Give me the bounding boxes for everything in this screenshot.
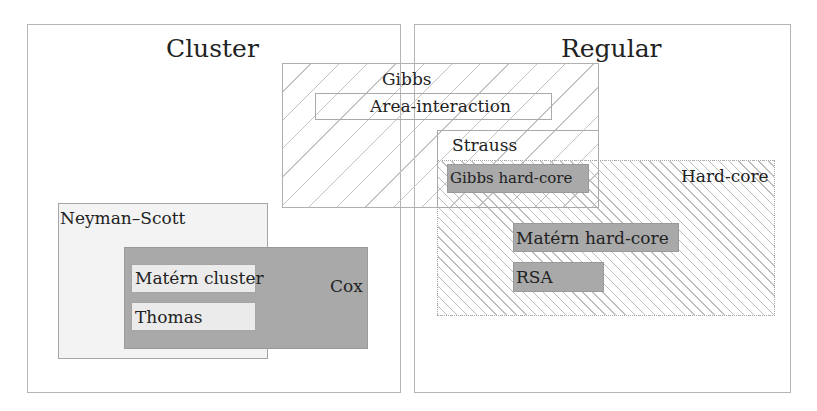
rsa-label: RSA: [516, 269, 553, 286]
area-interaction-label: Area-interaction: [370, 98, 511, 115]
cox-label: Cox: [330, 278, 363, 295]
strauss-label: Strauss: [452, 137, 517, 154]
cluster-label: Cluster: [166, 36, 259, 61]
matern-cluster-label: Matérn cluster: [135, 270, 264, 287]
thomas-label: Thomas: [135, 309, 203, 326]
gibbs-hard-core-label: Gibbs hard-core: [450, 171, 572, 186]
gibbs-label: Gibbs: [382, 71, 432, 88]
matern-hard-core-label: Matérn hard-core: [516, 230, 669, 247]
neyman-scott-label: Neyman–Scott: [60, 210, 185, 227]
hard-core-label: Hard-core: [681, 168, 769, 185]
regular-label: Regular: [561, 36, 662, 61]
cox-region: [124, 247, 368, 349]
